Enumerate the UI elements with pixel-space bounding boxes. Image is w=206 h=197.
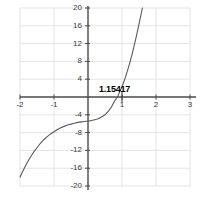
x-tick-label: 3 xyxy=(181,101,199,109)
x-tick-label: -1 xyxy=(45,101,63,109)
y-tick-label: 20 xyxy=(62,4,82,12)
axes xyxy=(20,6,196,190)
y-tick-label: -4 xyxy=(62,111,82,119)
root-value-annotation: 1.15417 xyxy=(99,85,130,94)
x-tick-label: 1 xyxy=(113,101,131,109)
y-tick-label: 8 xyxy=(62,57,82,65)
y-tick-label: -20 xyxy=(62,182,82,190)
cubic-function-plot xyxy=(0,0,206,197)
y-tick-label: -8 xyxy=(62,129,82,137)
y-tick-label: -12 xyxy=(62,146,82,154)
y-tick-label: 4 xyxy=(62,75,82,83)
x-tick-label: 2 xyxy=(147,101,165,109)
chart-figure: 20 16 12 8 4 -4 -8 -12 -16 -20 -2 -1 1 2… xyxy=(0,0,206,197)
y-tick-label: 12 xyxy=(62,40,82,48)
y-tick-label: 16 xyxy=(62,22,82,30)
x-tick-label: -2 xyxy=(11,101,29,109)
y-tick-label: -16 xyxy=(62,164,82,172)
